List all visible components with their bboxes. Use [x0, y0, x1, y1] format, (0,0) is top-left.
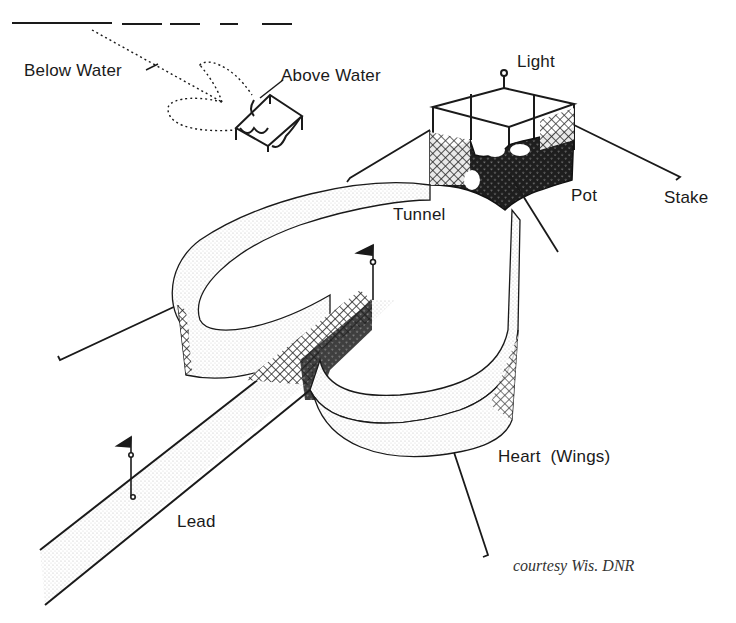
below-water-leader	[146, 64, 158, 70]
heart-wings-label: Heart (Wings)	[498, 447, 610, 467]
above-water-label: Above Water	[281, 66, 381, 86]
trap-net-diagram: Below Water Above Water Light Tunnel Pot…	[0, 0, 736, 623]
light-label: Light	[517, 52, 555, 72]
lead-label: Lead	[177, 512, 216, 532]
stake-label: Stake	[664, 188, 708, 208]
pot-label: Pot	[571, 186, 597, 206]
tunnel-label: Tunnel	[393, 205, 446, 225]
trap-net-illustration	[0, 0, 736, 623]
credit-caption: courtesy Wis. DNR	[513, 557, 634, 575]
below-water-label: Below Water	[24, 61, 122, 81]
water-surface-line	[12, 23, 292, 24]
above-water-pot	[236, 80, 302, 152]
